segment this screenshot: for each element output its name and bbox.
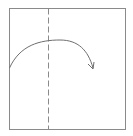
paper-square: [10, 9, 126, 130]
origami-diagram: [0, 0, 133, 136]
diagram-canvas: [0, 0, 133, 136]
